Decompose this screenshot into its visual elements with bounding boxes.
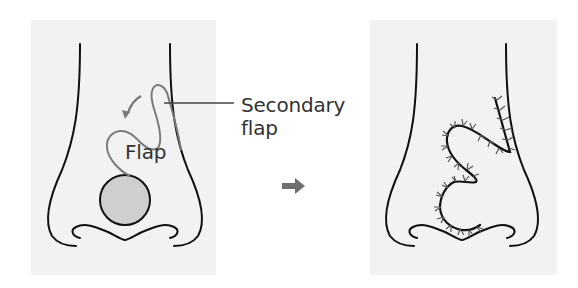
- right-arrow-icon: [282, 178, 305, 194]
- secondary-flap-label-line2: flap: [241, 117, 278, 139]
- sutured-incision-line: [440, 98, 510, 230]
- rotation-arrow-icon: [122, 96, 141, 119]
- nose-outline-after: [386, 44, 538, 246]
- secondary-flap-label-line1: Secondary: [241, 94, 345, 116]
- flap-label: Flap: [125, 141, 166, 163]
- defect-circle: [100, 175, 150, 225]
- diagram-canvas: [0, 0, 578, 288]
- suture-marks: [434, 96, 515, 237]
